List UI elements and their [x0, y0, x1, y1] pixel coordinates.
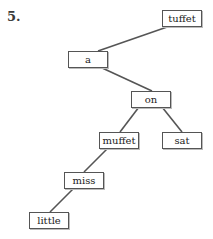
node-tuffet: tuffet — [162, 10, 202, 27]
edge-on-muffet — [120, 107, 139, 132]
edge-on-sat — [162, 107, 182, 132]
node-muffet: muffet — [99, 132, 139, 149]
edge-a-on — [100, 67, 152, 91]
tree-edges — [0, 0, 213, 239]
node-sat: sat — [162, 132, 202, 149]
edge-tuffet-a — [98, 26, 170, 51]
edge-muffet-miss — [84, 148, 108, 172]
edge-miss-little — [50, 189, 73, 212]
node-on: on — [131, 91, 171, 108]
node-a: a — [68, 51, 108, 68]
node-miss: miss — [64, 172, 104, 189]
node-little: little — [29, 212, 69, 229]
